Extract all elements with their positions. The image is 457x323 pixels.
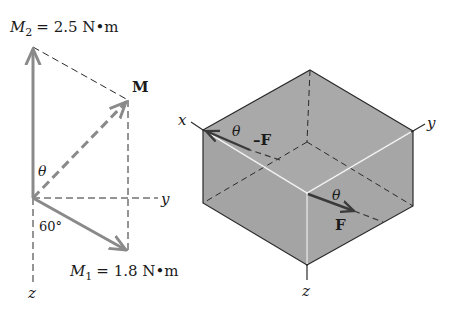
x-axis-stub bbox=[191, 122, 203, 130]
m-resultant-vector-arrow bbox=[33, 102, 126, 198]
m-resultant-label: M bbox=[132, 78, 149, 96]
m1-label: M1= 1.8 N•m bbox=[69, 262, 179, 283]
theta-label-front: θ bbox=[332, 187, 341, 203]
z-axis-label-left: z bbox=[27, 284, 36, 302]
m2-to-m-dashed-line bbox=[33, 47, 128, 100]
y-axis-stub bbox=[413, 124, 425, 131]
diagram-canvas: M2= 2.5 N•m M θ 60° y z M1= 1.8 N•m bbox=[0, 0, 457, 323]
neg-force-label: –F bbox=[253, 131, 272, 149]
box-force-couple-diagram: x y z θ –F θ F bbox=[178, 70, 436, 300]
y-axis-label-right: y bbox=[426, 114, 436, 132]
theta-label-left: θ bbox=[38, 163, 47, 179]
moment-vector-diagram: M2= 2.5 N•m M θ 60° y z M1= 1.8 N•m bbox=[9, 18, 179, 302]
x-axis-label-right: x bbox=[178, 111, 187, 129]
theta-label-top: θ bbox=[232, 123, 241, 139]
y-axis-label-left: y bbox=[160, 190, 170, 208]
sixty-degree-label: 60° bbox=[39, 219, 62, 234]
force-label: F bbox=[335, 216, 346, 234]
z-axis-label-right: z bbox=[301, 282, 310, 300]
m2-label: M2= 2.5 N•m bbox=[9, 18, 119, 39]
